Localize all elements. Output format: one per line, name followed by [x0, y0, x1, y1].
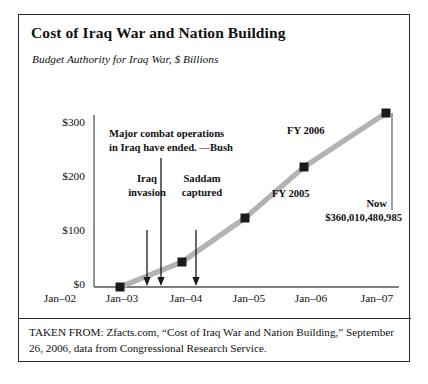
annotation-now-label: Now: [304, 198, 387, 209]
data-point-marker: [382, 109, 391, 118]
y-tick-label-200: $200: [39, 170, 85, 182]
x-tick-label-jan-02: Jan–02: [30, 292, 90, 304]
source-divider: [19, 318, 411, 319]
y-tick-label-300: $300: [39, 116, 85, 128]
data-point-marker: [178, 258, 187, 267]
data-point-marker: [300, 163, 309, 172]
source-note: TAKEN FROM: Zfacts.com, “Cost of Iraq Wa…: [29, 325, 401, 356]
annotation-saddam-captured-line2: captured: [162, 186, 242, 200]
annotation-saddam-captured-line1: Saddam: [162, 172, 242, 186]
x-tick-label-jan-04: Jan–04: [156, 292, 216, 304]
x-tick-label-jan-05: Jan–05: [219, 292, 279, 304]
x-tick-label-jan-07: Jan–07: [347, 292, 407, 304]
y-tick-label-0: $0: [39, 278, 85, 290]
annotation-major-combat-line2: in Iraq have ended. —Bush: [109, 141, 269, 155]
saddam-captured-arrowhead: [192, 277, 199, 286]
y-tick-label-100: $100: [39, 224, 85, 236]
iraq-invasion-arrowhead: [143, 277, 150, 286]
annotation-fy-2006: FY 2006: [287, 125, 325, 136]
x-tick-label-jan-03: Jan–03: [92, 292, 152, 304]
x-tick-label-jan-06: Jan–06: [281, 292, 341, 304]
chart-canvas: [19, 15, 411, 315]
data-point-marker: [116, 283, 125, 292]
major-combat-arrowhead: [157, 277, 164, 286]
annotation-now-value: $360,010,480,985: [234, 212, 402, 223]
figure-frame: Cost of Iraq War and Nation Building Bud…: [18, 14, 410, 362]
annotation-major-combat: Major combat operations in Iraq have end…: [109, 127, 269, 154]
plot-area: $300 $200 $100 $0 Jan–02 Jan–03 Jan–04 J…: [19, 15, 411, 315]
annotation-major-combat-line1: Major combat operations: [109, 127, 269, 141]
annotation-saddam-captured: Saddam captured: [162, 172, 242, 199]
